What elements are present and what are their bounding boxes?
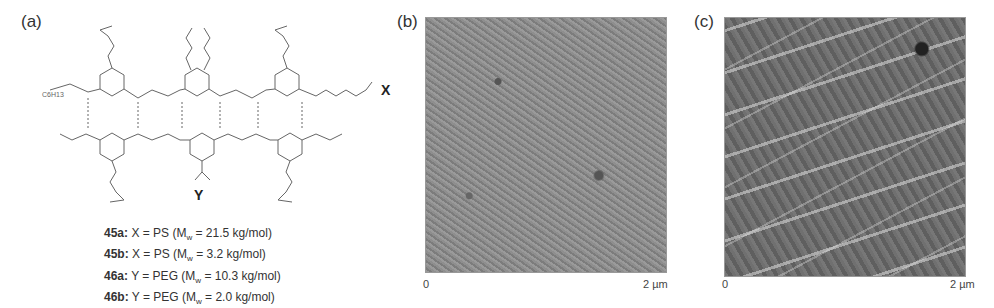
axis-c-end: 2 µm: [950, 278, 975, 290]
compound-row-2: 46a: Y = PEG (Mw = 10.3 kg/mol): [104, 268, 281, 289]
axis-b-end: 2 µm: [643, 278, 668, 290]
substituent-x-label: X: [381, 82, 390, 98]
alkyl-label: C6H13: [42, 91, 64, 98]
compound-legend: 45a: X = PS (Mw = 21.5 kg/mol) 45b: X = …: [104, 225, 281, 308]
substituent-y-label: Y: [194, 187, 203, 203]
panel-b-label: (b): [397, 12, 418, 32]
afm-image-b: [425, 17, 667, 273]
compound-row-3: 46b: Y = PEG (Mw = 2.0 kg/mol): [104, 289, 281, 308]
axis-c-start: 0: [722, 278, 728, 290]
compound-row-1: 45b: X = PS (Mw = 3.2 kg/mol): [104, 246, 281, 267]
axis-b-start: 0: [423, 278, 429, 290]
panel-c-label: (c): [694, 12, 714, 32]
compound-row-0: 45a: X = PS (Mw = 21.5 kg/mol): [104, 225, 281, 246]
afm-image-c: [724, 17, 966, 277]
duplex-molecular-structure: [20, 20, 390, 220]
